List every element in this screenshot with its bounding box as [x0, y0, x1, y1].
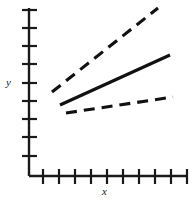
y-axis-label: y [6, 77, 11, 88]
series-line-upper-bound [52, 8, 158, 92]
series-line-fitted-line [60, 55, 170, 105]
chart-figure: y x [0, 0, 195, 211]
chart-plot-area [0, 0, 195, 211]
x-axis-label: x [102, 186, 107, 197]
series-line-lower-bound [66, 97, 173, 113]
